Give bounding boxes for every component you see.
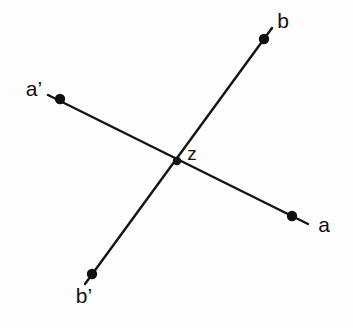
point-label-b-prime: b’ [76, 284, 92, 307]
point-label-b: b [277, 9, 289, 32]
line-b-prime-b [85, 28, 272, 284]
point-dot-b-prime [87, 269, 97, 279]
point-label-z: z [187, 143, 197, 164]
segments-group [48, 28, 308, 284]
point-dot-a [287, 211, 297, 221]
point-dot-a-prime [55, 94, 65, 104]
point-dot-b [259, 34, 269, 44]
geometry-figure: ba’zab’ [0, 0, 353, 328]
point-label-a: a [318, 213, 330, 236]
point-label-a-prime: a’ [26, 77, 42, 100]
point-dot-z [173, 157, 181, 165]
figure-canvas: ba’zab’ [0, 0, 353, 328]
points-group [55, 34, 297, 279]
